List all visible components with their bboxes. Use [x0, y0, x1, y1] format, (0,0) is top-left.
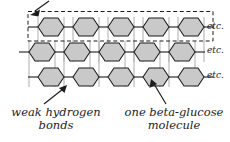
row-3-glucose-units: [38, 68, 204, 86]
chain-row-3: [28, 68, 213, 86]
etc-label-row-1: etc.: [207, 21, 224, 31]
glucose-hexagon: [38, 18, 64, 36]
glucose-hexagon: [108, 68, 134, 86]
caption-one-beta-glucose-molecule: one beta-glucose molecule: [118, 106, 230, 131]
chain-row-1: [28, 18, 213, 36]
row-1-glucose-units: [38, 18, 204, 36]
glucose-hexagon: [178, 68, 204, 86]
caption-line-1: one beta-glucose: [118, 106, 230, 119]
etc-label-row-3: etc.: [207, 70, 224, 80]
arrow-to-hydrogen-bond: [44, 85, 67, 104]
caption-line-2: molecule: [118, 119, 230, 132]
glucose-hexagon: [178, 18, 204, 36]
arrow-to-cellulose-chain: [30, 1, 49, 17]
glucose-hexagon: [99, 43, 125, 61]
glucose-hexagon: [38, 68, 64, 86]
etc-label-row-2: etc.: [207, 45, 224, 55]
glucose-hexagon: [73, 68, 99, 86]
glucose-hexagon: [64, 43, 90, 61]
caption-line-1: weak hydrogen: [2, 106, 110, 119]
glucose-hexagon: [29, 43, 55, 61]
caption-weak-hydrogen-bonds: weak hydrogen bonds: [2, 106, 110, 131]
glucose-hexagon: [73, 18, 99, 36]
caption-line-2: bonds: [2, 119, 110, 132]
glucose-hexagon: [108, 18, 134, 36]
chain-row-2: [19, 43, 205, 61]
glucose-hexagon: [134, 43, 160, 61]
glucose-hexagon: [169, 43, 195, 61]
glucose-hexagon: [143, 18, 169, 36]
row-2-glucose-units: [29, 43, 195, 61]
cellulose-structure-figure: etc. etc. etc. weak hydrogen bonds one b…: [0, 0, 230, 142]
